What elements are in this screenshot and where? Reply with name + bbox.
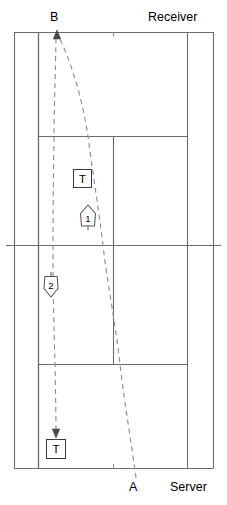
- label-point-a: A: [129, 481, 137, 494]
- marker-2-label: 2: [44, 280, 58, 291]
- label-server: Server: [170, 481, 207, 494]
- tennis-court-svg: [0, 0, 227, 505]
- marker-t-bottom: T: [46, 439, 66, 459]
- diagram-canvas: B Receiver A Server T T 1 2: [0, 0, 227, 505]
- arrowhead-at-bottom-T: [52, 429, 59, 438]
- label-receiver: Receiver: [148, 11, 197, 24]
- marker-1-label: 1: [81, 213, 95, 224]
- serve-path-A-to-B: [59, 36, 137, 478]
- arrowhead-at-B: [53, 30, 61, 39]
- court-lines: [6, 32, 221, 469]
- label-point-b: B: [50, 11, 58, 24]
- ball-trajectories: [52, 30, 136, 478]
- return-path-B-to-T: [53, 38, 56, 433]
- marker-t-top: T: [73, 169, 92, 188]
